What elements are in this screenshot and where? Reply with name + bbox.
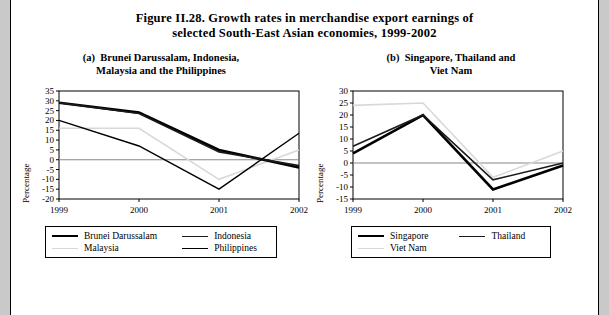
y-tick-label: 0 bbox=[50, 155, 55, 165]
panel-b-legend: SingaporeThailandViet Nam bbox=[351, 226, 551, 258]
panel-a-subtitle-line-1: (a) Brunei Darussalam, Indonesia, bbox=[11, 51, 311, 64]
figure-title-line-2: selected South-East Asian economies, 199… bbox=[11, 26, 598, 41]
y-tick-label: 20 bbox=[45, 115, 55, 125]
x-tick-label: 2001 bbox=[210, 205, 228, 215]
figure-container: Figure II.28. Growth rates in merchandis… bbox=[10, 0, 599, 315]
y-tick-label: 30 bbox=[339, 86, 349, 96]
legend-swatch-icon bbox=[358, 235, 384, 237]
panel-a-legend: Brunei DarussalamIndonesiaMalaysiaPhilip… bbox=[45, 226, 277, 258]
legend-item: Thailand bbox=[459, 231, 544, 241]
panel-a-label: (a) bbox=[83, 52, 95, 63]
y-tick-label: 20 bbox=[339, 110, 349, 120]
y-tick-label: -20 bbox=[42, 194, 54, 204]
legend-label: Singapore bbox=[390, 231, 429, 241]
x-tick-label: 2001 bbox=[484, 205, 502, 215]
panel-b-chart: Percentage 302520151050-5-10-15199920002… bbox=[311, 83, 591, 218]
y-tick-label: -5 bbox=[341, 170, 349, 180]
legend-item: Malaysia bbox=[52, 243, 170, 253]
panel-b-label: (b) bbox=[387, 52, 400, 63]
y-tick-label: 30 bbox=[45, 96, 55, 106]
y-tick-label: -10 bbox=[336, 182, 348, 192]
panel-b: (b) Singapore, Thailand and Viet Nam Per… bbox=[311, 51, 591, 258]
panel-a: (a) Brunei Darussalam, Indonesia, Malays… bbox=[11, 51, 311, 258]
x-tick-label: 2002 bbox=[290, 205, 308, 215]
y-tick-label: 15 bbox=[339, 122, 349, 132]
panel-a-subtitle-text-1: Brunei Darussalam, Indonesia, bbox=[100, 52, 239, 63]
legend-item: Brunei Darussalam bbox=[52, 231, 170, 241]
legend-swatch-icon bbox=[52, 248, 78, 249]
legend-item: Indonesia bbox=[182, 231, 270, 241]
x-tick-label: 1999 bbox=[50, 205, 69, 215]
figure-title: Figure II.28. Growth rates in merchandis… bbox=[11, 0, 598, 41]
panel-a-chart: Percentage 35302520151050-5-10-15-201999… bbox=[11, 83, 311, 218]
legend-swatch-icon bbox=[358, 248, 384, 249]
y-tick-label: -10 bbox=[42, 174, 54, 184]
y-tick-label: 10 bbox=[339, 134, 349, 144]
y-tick-label: 35 bbox=[45, 86, 55, 96]
y-tick-label: -5 bbox=[47, 165, 55, 175]
panel-b-subtitle-line-2: Viet Nam bbox=[311, 64, 591, 77]
legend-swatch-icon bbox=[52, 235, 78, 237]
y-tick-label: 10 bbox=[45, 135, 55, 145]
panel-a-subtitle-line-2: Malaysia and the Philippines bbox=[11, 64, 311, 77]
y-tick-label: -15 bbox=[336, 194, 348, 204]
panel-a-plot: 35302520151050-5-10-15-20199920002001200… bbox=[11, 83, 311, 218]
y-tick-label: -15 bbox=[42, 184, 54, 194]
x-tick-label: 2000 bbox=[130, 205, 149, 215]
y-tick-label: 5 bbox=[344, 146, 349, 156]
x-tick-label: 2000 bbox=[414, 205, 433, 215]
legend-swatch-icon bbox=[459, 236, 485, 237]
legend-item: Singapore bbox=[358, 231, 447, 241]
y-tick-label: 5 bbox=[50, 145, 55, 155]
x-tick-label: 2002 bbox=[554, 205, 572, 215]
y-tick-label: 25 bbox=[45, 106, 55, 116]
panel-b-plot: 302520151050-5-10-151999200020012002 bbox=[311, 83, 576, 218]
legend-swatch-icon bbox=[182, 248, 208, 249]
legend-label: Viet Nam bbox=[390, 243, 427, 253]
panel-a-subtitle: (a) Brunei Darussalam, Indonesia, Malays… bbox=[11, 51, 311, 77]
panel-b-y-axis-label: Percentage bbox=[315, 164, 325, 203]
legend-label: Malaysia bbox=[84, 243, 119, 253]
figure-title-line-1: Figure II.28. Growth rates in merchandis… bbox=[11, 11, 598, 26]
legend-item: Viet Nam bbox=[358, 243, 447, 253]
legend-label: Indonesia bbox=[214, 231, 251, 241]
panel-b-subtitle-line-1: (b) Singapore, Thailand and bbox=[311, 51, 591, 64]
x-tick-label: 1999 bbox=[344, 205, 363, 215]
y-tick-label: 0 bbox=[344, 158, 349, 168]
legend-label: Philippines bbox=[214, 243, 257, 253]
y-tick-label: 25 bbox=[339, 98, 349, 108]
panel-a-y-axis-label: Percentage bbox=[21, 164, 31, 203]
legend-item: Philippines bbox=[182, 243, 270, 253]
legend-swatch-icon bbox=[182, 236, 208, 237]
legend-label: Thailand bbox=[491, 231, 525, 241]
legend-label: Brunei Darussalam bbox=[84, 231, 157, 241]
panel-b-subtitle-text-1: Singapore, Thailand and bbox=[405, 52, 516, 63]
y-tick-label: 15 bbox=[45, 125, 55, 135]
panels-row: (a) Brunei Darussalam, Indonesia, Malays… bbox=[11, 51, 598, 258]
panel-b-subtitle: (b) Singapore, Thailand and Viet Nam bbox=[311, 51, 591, 77]
